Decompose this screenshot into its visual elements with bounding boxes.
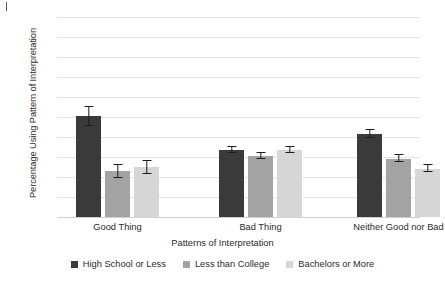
- legend-item: Less than College: [183, 259, 269, 269]
- error-bar-cap-bottom: [423, 171, 432, 172]
- error-bar: [134, 17, 159, 217]
- error-bar-cap-bottom: [113, 177, 122, 178]
- error-bar: [357, 17, 382, 217]
- legend-label: Less than College: [195, 259, 269, 269]
- legend-swatch-icon: [183, 261, 190, 268]
- error-bar: [105, 17, 130, 217]
- gridline: [57, 217, 420, 218]
- x-tick-label: Good Thing: [93, 222, 141, 232]
- error-bar-stem: [88, 107, 89, 126]
- scan-artifact-tick: [6, 2, 7, 11]
- x-tick-label: Bad Thing: [239, 222, 281, 232]
- error-bar-cap-bottom: [256, 158, 265, 159]
- error-bar-cap-bottom: [394, 161, 403, 162]
- legend-label: Bachelors or More: [298, 259, 374, 269]
- legend-item: High School or Less: [71, 259, 166, 269]
- legend-swatch-icon: [286, 261, 293, 268]
- x-axis-title: Patterns of Interpretation: [0, 238, 445, 248]
- error-bar-cap-top: [256, 152, 265, 153]
- error-bar: [219, 17, 244, 217]
- error-bar: [248, 17, 273, 217]
- legend-swatch-icon: [71, 261, 78, 268]
- plot-area: 0102030405060708090100: [57, 17, 420, 217]
- error-bar-cap-bottom: [365, 137, 374, 138]
- error-bar-cap-top: [423, 164, 432, 165]
- error-bar-cap-top: [394, 154, 403, 155]
- legend-label: High School or Less: [83, 259, 166, 269]
- error-bar-cap-bottom: [227, 152, 236, 153]
- error-bar: [386, 17, 411, 217]
- x-tick-label: Neither Good nor Bad: [353, 222, 443, 232]
- error-bar-cap-top: [113, 164, 122, 165]
- error-bar-cap-bottom: [84, 125, 93, 126]
- chart-legend: High School or LessLess than CollegeBach…: [0, 259, 445, 269]
- error-bar-cap-top: [84, 106, 93, 107]
- error-bar: [415, 17, 440, 217]
- y-axis-title: Percentage Using Pattern of Interpretati…: [28, 8, 38, 218]
- error-bar-cap-bottom: [142, 173, 151, 174]
- error-bar-cap-top: [142, 160, 151, 161]
- bar-chart-figure: Percentage Using Pattern of Interpretati…: [0, 0, 445, 286]
- error-bar-cap-top: [365, 129, 374, 130]
- error-bar-cap-bottom: [285, 152, 294, 153]
- error-bar: [76, 17, 101, 217]
- legend-item: Bachelors or More: [286, 259, 374, 269]
- error-bar-cap-top: [227, 146, 236, 147]
- error-bar-cap-top: [285, 146, 294, 147]
- error-bar: [277, 17, 302, 217]
